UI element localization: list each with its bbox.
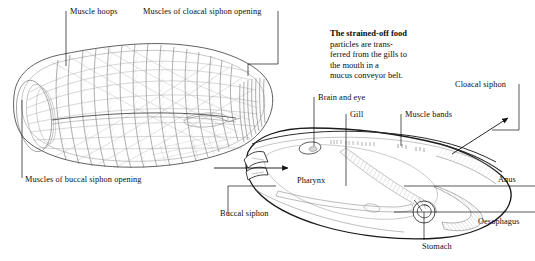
label-oesophagus: Oesophagus [478,218,520,227]
label-muscle-bands: Muscle bands [405,111,452,120]
left-body-artwork [12,11,278,178]
figure-artwork [0,0,535,261]
leader-cloacal-siphon [492,84,519,130]
outflow-arrow [452,118,508,154]
label-muscle-hoops: Muscle hoops [70,8,118,17]
label-stomach: Stomach [422,243,452,252]
label-gill: Gill [350,111,363,120]
label-muscles-of-buccal-siphon-opening: Muscles of buccal siphon opening [25,176,142,185]
label-muscles-of-cloacal-siphon-opening: Muscles of cloacal siphon opening [143,8,262,17]
label-buccal-siphon: Buccal siphon [220,210,269,219]
label-cloacal-siphon: Cloacal siphon [455,81,506,90]
label-brain-and-eye: Brain and eye [318,94,365,103]
food-particles-caption: The strained-off food particles are tran… [330,28,448,81]
cloacal-siphon-shading [238,80,268,144]
caption-bold-lead: The strained-off food [330,28,407,38]
label-anus: Anus [498,176,516,185]
caption-line-4: mucus conveyor belt. [330,70,448,81]
anatomy-figure: The strained-off food particles are tran… [0,0,535,261]
label-pharynx: Pharynx [297,177,325,186]
caption-line-1: particles are trans- [330,39,448,50]
caption-line-3: the mouth in a [330,60,448,71]
caption-line-2: ferred from the gills to [330,49,448,60]
